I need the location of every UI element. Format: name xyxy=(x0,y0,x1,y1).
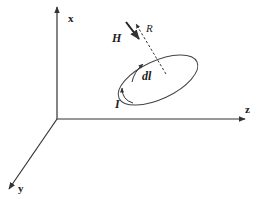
field-arrow xyxy=(126,22,139,39)
x-axis-label: x xyxy=(68,12,74,24)
y-axis xyxy=(9,119,57,189)
dl-label: dl xyxy=(142,69,152,83)
diagram-canvas: x z y dl R H I xyxy=(0,0,257,200)
y-axis-label: y xyxy=(18,182,24,194)
diagram-svg: x z y dl R H I xyxy=(0,0,257,200)
r-label: R xyxy=(145,22,153,34)
current-arrow xyxy=(122,88,133,103)
z-axis-label: z xyxy=(245,103,250,115)
current-loop xyxy=(111,45,205,116)
h-label: H xyxy=(111,31,122,45)
